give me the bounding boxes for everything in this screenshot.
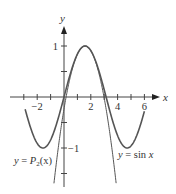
y-axis-label: y	[59, 12, 65, 24]
p2-curve	[54, 46, 116, 183]
x-tick-label: 4	[115, 101, 121, 112]
sin-curve-label: y = sin x	[117, 149, 154, 160]
plot-area: −22461−1 x y y = P2(x) y = sin x	[0, 0, 176, 194]
y-axis-arrow-icon	[61, 26, 67, 34]
x-axis-arrow-icon	[152, 94, 160, 100]
y-tick-label: −1	[68, 143, 79, 154]
y-tick-label: 1	[53, 41, 58, 52]
chart-root: −22461−1 x y y = P2(x) y = sin x	[0, 0, 176, 194]
p2-curve-label: y = P2(x)	[13, 155, 53, 168]
x-tick-label: −2	[32, 101, 43, 112]
x-axis-label: x	[162, 91, 168, 103]
x-tick-label: 6	[142, 101, 147, 112]
x-tick-label: 2	[88, 101, 93, 112]
